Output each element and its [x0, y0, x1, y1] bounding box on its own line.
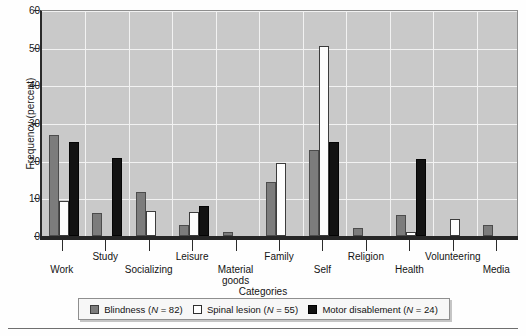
legend-item[interactable]: Motor disablement (N = 24) — [308, 304, 437, 315]
x-tick-mark — [62, 240, 63, 251]
x-tick-label: Media — [483, 264, 510, 275]
y-tick-mark — [34, 10, 39, 11]
bar — [199, 206, 209, 236]
bar-group — [477, 11, 520, 236]
legend-item[interactable]: Blindness (N = 82) — [90, 304, 182, 315]
bar — [329, 142, 339, 236]
x-tick-label: Self — [314, 264, 331, 275]
bar — [319, 46, 329, 236]
x-tick-label: Socializing — [125, 264, 173, 275]
bar — [69, 142, 79, 236]
x-tick-mark — [366, 240, 367, 251]
x-axis: WorkStudySocializingLeisureMaterialgoods… — [40, 240, 518, 286]
bar-group — [346, 11, 389, 236]
bar — [146, 211, 156, 236]
bar — [92, 213, 102, 236]
bar-group — [259, 11, 302, 236]
bar-group — [42, 11, 85, 236]
bar — [483, 225, 493, 236]
bar-group — [303, 11, 346, 236]
chart-figure: Frequency (percent) 0102030405060 WorkSt… — [0, 0, 526, 336]
bar — [49, 135, 59, 236]
x-tick-mark — [453, 240, 454, 251]
bar-group — [172, 11, 215, 236]
bar — [276, 163, 286, 236]
x-tick-mark — [149, 240, 150, 251]
legend-label: Motor disablement (N = 24) — [322, 304, 437, 315]
y-tick-mark — [34, 48, 39, 49]
bar — [189, 212, 199, 236]
legend-item[interactable]: Spinal lesion (N = 55) — [193, 304, 298, 315]
y-tick-mark — [34, 123, 39, 124]
chart-legend: Blindness (N = 82)Spinal lesion (N = 55)… — [78, 298, 450, 320]
bar-group — [216, 11, 259, 236]
x-tick-mark — [496, 240, 497, 251]
bar — [59, 201, 69, 236]
bar — [309, 150, 319, 236]
bar — [353, 228, 363, 236]
bar-group — [390, 11, 433, 236]
bar — [450, 219, 460, 236]
x-tick-label: Health — [395, 264, 424, 275]
legend-label: Blindness (N = 82) — [104, 304, 182, 315]
x-tick-mark — [409, 240, 410, 251]
bar — [396, 215, 406, 236]
y-tick-mark — [34, 236, 39, 237]
x-tick-label: Leisure — [176, 251, 209, 262]
x-tick-mark — [236, 240, 237, 251]
legend-swatch-motor — [308, 305, 317, 314]
bar-group — [85, 11, 128, 236]
bar — [223, 232, 233, 236]
bar — [266, 182, 276, 236]
x-tick-mark — [192, 240, 193, 251]
bar — [112, 158, 122, 236]
y-axis: 0102030405060 — [0, 0, 40, 250]
bar — [136, 192, 146, 236]
bar-group — [129, 11, 172, 236]
x-axis-title: Categories — [0, 286, 526, 297]
x-tick-mark — [322, 240, 323, 251]
x-tick-label: Materialgoods — [218, 264, 254, 286]
legend-swatch-spinal — [193, 305, 202, 314]
x-tick-mark — [279, 240, 280, 251]
y-tick-mark — [34, 85, 39, 86]
bar — [179, 225, 189, 236]
bar — [406, 232, 416, 236]
x-tick-label: Family — [264, 251, 293, 262]
x-tick-label: Work — [50, 264, 73, 275]
bottom-divider — [8, 328, 518, 329]
y-tick-mark — [34, 198, 39, 199]
x-tick-mark — [105, 240, 106, 251]
bar — [416, 159, 426, 236]
x-tick-label: Religion — [348, 251, 384, 262]
bar-group — [433, 11, 476, 236]
legend-swatch-blind — [90, 305, 99, 314]
plot-area — [40, 10, 518, 236]
legend-label: Spinal lesion (N = 55) — [207, 304, 298, 315]
x-tick-label: Volunteering — [425, 251, 481, 262]
x-tick-label: Study — [92, 251, 118, 262]
y-tick-mark — [34, 161, 39, 162]
